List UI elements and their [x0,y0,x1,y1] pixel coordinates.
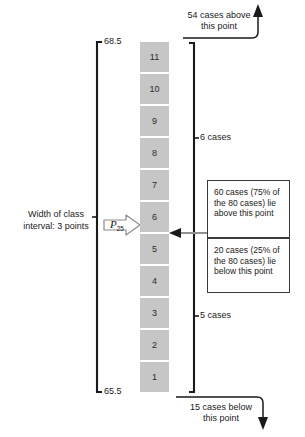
interval-block: 10 [140,74,169,104]
interval-block: 7 [140,170,169,200]
p25-symbol: P25 [110,218,124,232]
interval-block: 4 [140,266,169,296]
interval-block: 9 [140,106,169,136]
class-width-label: Width of class interval: 3 points [16,208,96,232]
lower-group-label: 5 cases [200,310,231,321]
percentile-point-arrow [169,228,207,238]
upper-cases-bracket [189,43,199,232]
class-interval-column: 11 10 9 8 7 6 5 4 3 2 1 [140,42,169,392]
above-total-label: 54 cases above this point [180,10,258,32]
upper-group-label: 6 cases [200,132,231,143]
interval-block: 11 [140,42,169,72]
p25-letter: P [110,218,117,230]
p25-subscript: 25 [117,225,124,232]
lower-cases-bracket [189,234,199,392]
callout-cases-below: 20 cases (25% of the 80 cases) lie below… [207,238,290,293]
upper-limit-label: 68.5 [104,36,122,47]
p25-tag: P25 [103,214,144,236]
interval-block: 1 [140,362,169,392]
figure-canvas: 11 10 9 8 7 6 5 4 3 2 1 68.5 65.5 Width … [0,0,305,437]
interval-block: 2 [140,330,169,360]
interval-block: 5 [140,234,169,264]
below-total-label: 15 cases below this point [182,402,260,424]
interval-block: 6 [140,202,169,232]
lower-limit-label: 65.5 [104,386,122,397]
callout-cases-above: 60 cases (75% of the 80 cases) lie above… [207,180,290,238]
interval-block: 3 [140,298,169,328]
interval-block: 8 [140,138,169,168]
